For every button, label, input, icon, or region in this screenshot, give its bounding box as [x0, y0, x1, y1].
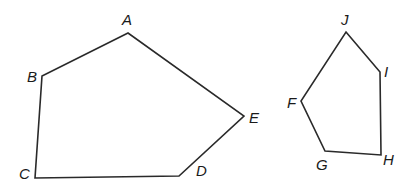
pentagon-abcde — [35, 33, 244, 178]
vertex-label-b: B — [27, 68, 37, 85]
vertex-label-f: F — [287, 94, 297, 111]
vertex-label-g: G — [316, 156, 328, 173]
vertex-label-i: I — [384, 63, 388, 80]
vertex-label-c: C — [19, 165, 30, 182]
pentagon-fghij — [301, 32, 381, 155]
diagram-canvas: A B C D E J I H G F — [0, 0, 410, 187]
vertex-label-e: E — [249, 109, 260, 126]
vertex-label-a: A — [121, 11, 132, 28]
vertex-label-j: J — [340, 11, 349, 28]
vertex-label-d: D — [196, 162, 207, 179]
vertex-label-h: H — [383, 151, 394, 168]
